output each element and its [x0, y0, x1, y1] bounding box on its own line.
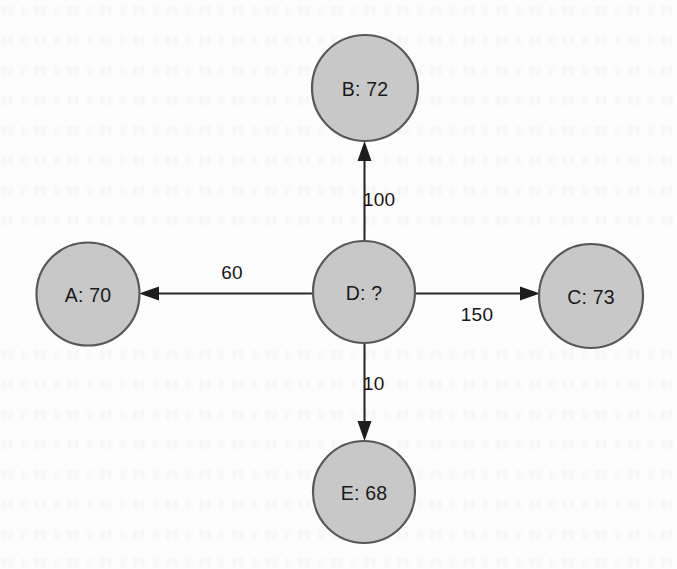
edge-d-to-a: 60	[139, 262, 313, 301]
node-b[interactable]: B: 72	[312, 35, 418, 141]
node-b-label: B: 72	[342, 78, 389, 100]
edge-d-to-a-weight: 60	[221, 262, 243, 283]
node-d-label: D: ?	[346, 282, 383, 304]
edge-d-to-e-weight: 10	[363, 373, 385, 394]
edge-d-to-a-arrowhead	[139, 287, 159, 301]
node-a[interactable]: A: 70	[37, 243, 140, 346]
edge-d-to-b: 100	[358, 141, 396, 241]
node-e[interactable]: E: 68	[313, 441, 415, 543]
node-c-label: C: 73	[567, 286, 615, 308]
node-a-label: A: 70	[65, 284, 112, 306]
diagram-page: 100 60 150 10 B: 72 A: 70	[0, 0, 677, 569]
graph-diagram: 100 60 150 10 B: 72 A: 70	[0, 0, 677, 569]
edge-d-to-c: 150	[415, 287, 540, 325]
edge-d-to-b-weight: 100	[363, 189, 395, 210]
node-d[interactable]: D: ?	[313, 241, 415, 343]
edge-d-to-b-arrowhead	[358, 141, 372, 161]
edge-d-to-e: 10	[358, 343, 385, 441]
node-e-label: E: 68	[341, 482, 388, 504]
node-c[interactable]: C: 73	[539, 244, 643, 348]
edge-d-to-c-weight: 150	[461, 304, 493, 325]
edge-d-to-c-arrowhead	[520, 287, 540, 301]
edge-d-to-e-arrowhead	[358, 421, 372, 441]
